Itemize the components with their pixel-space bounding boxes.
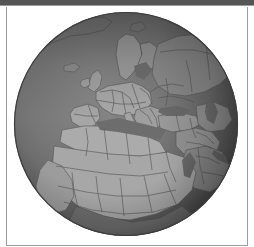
window-titlebar (0, 0, 254, 6)
globe-viewer-window (0, 0, 254, 247)
globe-panel (6, 7, 248, 246)
